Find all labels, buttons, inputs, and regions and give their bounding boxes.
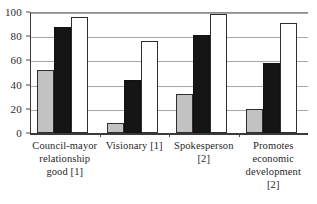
x-axis-category-label-line: economic — [234, 152, 314, 165]
bar — [280, 23, 297, 133]
bar-chart: 020406080100 Council-mayorrelationshipgo… — [0, 0, 317, 204]
bar — [263, 63, 280, 133]
x-axis-category-label: Council-mayorrelationshipgood [1] — [25, 139, 105, 178]
bar-group — [246, 0, 297, 133]
bar-group — [107, 0, 158, 133]
x-axis-category-label-line: Visionary [1] — [95, 139, 175, 152]
x-axis-category-label-line: Council-mayor — [25, 139, 105, 152]
x-axis-tick-mark — [239, 133, 240, 137]
x-axis-category-label: Promoteseconomicdevelopment[2] — [234, 139, 314, 191]
bar — [124, 80, 141, 133]
x-axis-category-label: Visionary [1] — [95, 139, 175, 152]
x-axis-category-label-line: development — [234, 165, 314, 178]
x-axis-labels: Council-mayorrelationshipgood [1]Visiona… — [30, 139, 308, 203]
x-axis-tick-mark — [169, 133, 170, 137]
x-axis-category-label-line: [2] — [164, 152, 244, 165]
bar-group — [37, 0, 88, 133]
bar — [193, 35, 210, 133]
x-axis-category-label-line: good [1] — [25, 165, 105, 178]
bar — [210, 14, 227, 133]
x-axis-category-label-line: relationship — [25, 152, 105, 165]
bar — [54, 27, 71, 133]
x-axis-category-label-line: [2] — [234, 178, 314, 191]
x-axis-category-label-line: Promotes — [234, 139, 314, 152]
x-axis-category-label: Spokesperson[2] — [164, 139, 244, 165]
bar-group — [176, 0, 227, 133]
bar — [141, 41, 158, 133]
x-axis-tick-mark — [100, 133, 101, 137]
x-axis-category-label-line: Spokesperson — [164, 139, 244, 152]
bar — [71, 17, 88, 133]
bar — [107, 123, 124, 133]
bar — [246, 109, 263, 133]
bar — [37, 70, 54, 133]
bar — [176, 94, 193, 133]
